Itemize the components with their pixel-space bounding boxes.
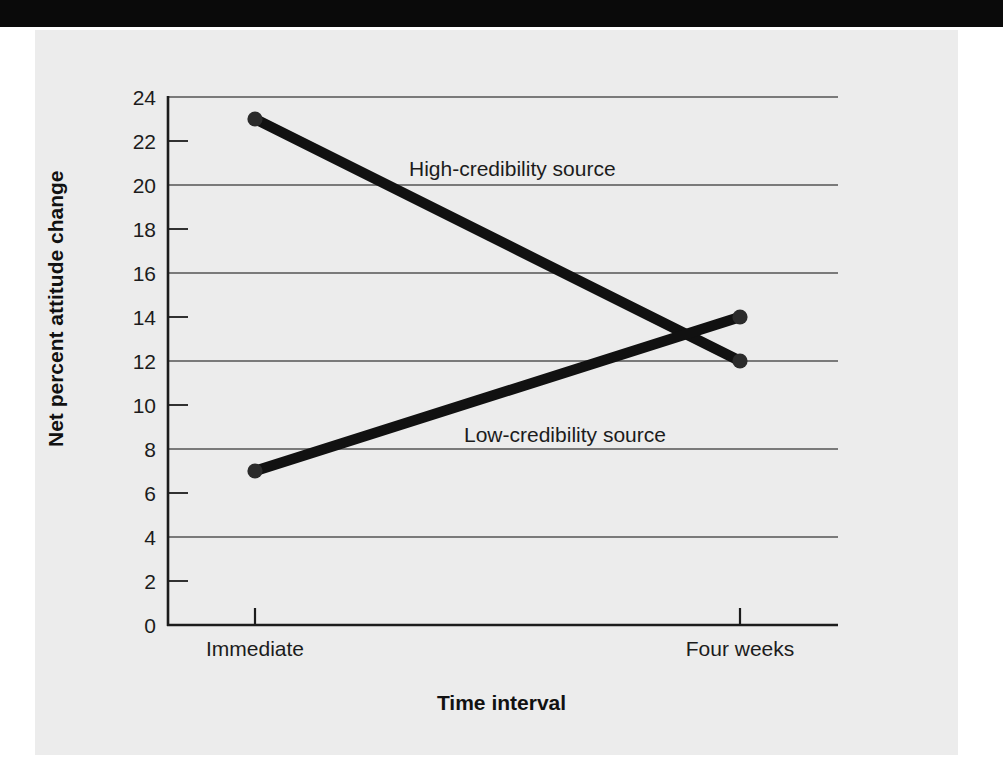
- y-tick-label-22: 22: [110, 131, 156, 152]
- y-tick-label-12: 12: [110, 351, 156, 372]
- x-tick-label-immediate: Immediate: [206, 637, 304, 661]
- y-tick-label-14: 14: [110, 307, 156, 328]
- series-high-credibility-source: [247, 111, 747, 368]
- y-tick-label-18: 18: [110, 219, 156, 240]
- series-label-low-credibility: Low-credibility source: [464, 423, 666, 447]
- y-tick-label-2: 2: [110, 571, 156, 592]
- y-tick-label-group: 24 22 20 18 16 14 12 10 8 6 4 2 0: [104, 0, 156, 783]
- y-tick-label-10: 10: [110, 395, 156, 416]
- series-label-high-credibility: High-credibility source: [409, 157, 616, 181]
- data-point-high-four-weeks: [732, 353, 747, 368]
- x-tick-label-four-weeks: Four weeks: [686, 637, 795, 661]
- series-line-low-credibility: [255, 317, 740, 471]
- y-tick-label-20: 20: [110, 175, 156, 196]
- x-tick-marks: [255, 608, 740, 625]
- data-point-low-four-weeks: [732, 309, 747, 324]
- y-tick-label-4: 4: [110, 527, 156, 548]
- y-tick-label-8: 8: [110, 439, 156, 460]
- series-line-high-credibility: [255, 119, 740, 361]
- y-axis-title: Net percent attitude change: [44, 247, 68, 447]
- data-point-low-immediate: [247, 463, 262, 478]
- series-low-credibility-source: [247, 309, 747, 478]
- y-tick-label-24: 24: [110, 87, 156, 108]
- y-tick-label-6: 6: [110, 483, 156, 504]
- y-tick-label-0: 0: [110, 615, 156, 636]
- y-tick-label-16: 16: [110, 263, 156, 284]
- x-axis-title: Time interval: [0, 691, 1003, 715]
- data-point-high-immediate: [247, 111, 262, 126]
